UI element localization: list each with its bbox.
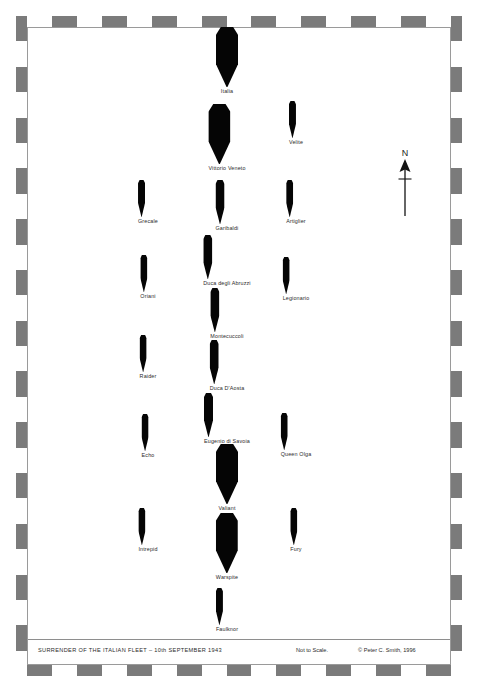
border-cell bbox=[152, 16, 177, 27]
border-cell bbox=[451, 219, 462, 244]
border-cell bbox=[202, 665, 227, 676]
ship-hull-icon bbox=[216, 588, 238, 625]
border-cell bbox=[16, 473, 27, 498]
ship-marker[interactable]: Valiant bbox=[216, 444, 238, 511]
ship-hull-icon bbox=[140, 255, 155, 292]
border-cell bbox=[52, 16, 77, 27]
border-cell bbox=[301, 16, 326, 27]
ship-hull-icon bbox=[138, 180, 158, 217]
caption-copyright: © Peter C. Smith, 1996 bbox=[358, 647, 416, 653]
border-cell bbox=[451, 651, 462, 676]
border-cell bbox=[52, 665, 77, 676]
ship-hull-icon bbox=[289, 101, 303, 138]
border-cell bbox=[16, 245, 27, 270]
ship-marker[interactable]: Duca D'Aosta bbox=[210, 340, 245, 391]
ship-hull-icon bbox=[208, 104, 245, 164]
border-cell bbox=[251, 665, 276, 676]
border-cell bbox=[16, 118, 27, 143]
border-cell bbox=[16, 371, 27, 396]
ship-hull-icon bbox=[290, 508, 301, 545]
border-cell bbox=[16, 270, 27, 295]
map-caption-bar: SURRENDER OF THE ITALIAN FLEET – 10th SE… bbox=[28, 639, 450, 660]
ship-marker[interactable]: Intrepid bbox=[138, 508, 157, 552]
border-cell bbox=[451, 575, 462, 600]
ship-marker[interactable]: Montecuccoli bbox=[210, 288, 243, 339]
border-cell bbox=[451, 245, 462, 270]
border-cell bbox=[451, 143, 462, 168]
ship-label: Intrepid bbox=[138, 546, 157, 552]
ship-hull-icon bbox=[203, 235, 250, 279]
border-cell bbox=[301, 665, 326, 676]
ship-marker[interactable]: Faulknor bbox=[216, 588, 238, 632]
ship-marker[interactable]: Italia bbox=[216, 27, 238, 94]
border-cell bbox=[426, 16, 451, 27]
border-cell bbox=[16, 575, 27, 600]
border-band-right bbox=[451, 16, 462, 676]
border-cell bbox=[16, 41, 27, 66]
border-cell bbox=[326, 16, 351, 27]
ship-label: Fury bbox=[290, 546, 301, 552]
border-cell bbox=[77, 665, 102, 676]
border-cell bbox=[16, 422, 27, 447]
ship-label: Velite bbox=[289, 139, 303, 145]
frame-rule-right bbox=[450, 27, 451, 665]
border-cell bbox=[451, 67, 462, 92]
ship-hull-icon bbox=[204, 393, 250, 437]
ship-marker[interactable]: Queen Olga bbox=[281, 413, 312, 457]
ship-label: Duca degli Abruzzi bbox=[203, 280, 250, 286]
border-cell bbox=[102, 665, 127, 676]
ship-label: Queen Olga bbox=[281, 451, 312, 457]
ship-label: Artiglier bbox=[286, 218, 306, 224]
ship-hull-icon bbox=[216, 27, 238, 87]
border-cell bbox=[77, 16, 102, 27]
ship-label: Grecale bbox=[138, 218, 158, 224]
ship-marker[interactable]: Raider bbox=[140, 335, 157, 379]
ship-marker[interactable]: Warspite bbox=[216, 513, 238, 580]
border-cell bbox=[451, 448, 462, 473]
border-cell bbox=[16, 295, 27, 320]
map-canvas: ItaliaVittorio VenetoVeliteGrecaleGariba… bbox=[28, 28, 450, 636]
ship-marker[interactable]: Duca degli Abruzzi bbox=[203, 235, 250, 286]
border-cell bbox=[451, 625, 462, 650]
border-cell bbox=[16, 346, 27, 371]
ship-marker[interactable]: Grecale bbox=[138, 180, 158, 224]
border-cell bbox=[102, 16, 127, 27]
ship-marker[interactable]: Echo bbox=[142, 414, 155, 458]
caption-scale-note: Not to Scale. bbox=[296, 647, 328, 653]
ship-label: Oriani bbox=[140, 293, 155, 299]
ship-marker[interactable]: Garibaldi bbox=[216, 180, 239, 231]
border-cell bbox=[251, 16, 276, 27]
ship-hull-icon bbox=[140, 335, 157, 372]
border-cell bbox=[376, 665, 401, 676]
ship-marker[interactable]: Legionario bbox=[283, 257, 310, 301]
north-label: N bbox=[388, 148, 422, 158]
border-cell bbox=[27, 665, 52, 676]
ship-marker[interactable]: Artiglier bbox=[286, 180, 306, 224]
map-page: ItaliaVittorio VenetoVeliteGrecaleGariba… bbox=[0, 0, 478, 692]
ship-marker[interactable]: Oriani bbox=[140, 255, 155, 299]
border-cell bbox=[202, 16, 227, 27]
border-cell bbox=[451, 168, 462, 193]
border-cell bbox=[451, 422, 462, 447]
border-cell bbox=[451, 194, 462, 219]
ship-label: Raider bbox=[140, 373, 157, 379]
ship-label: Valiant bbox=[216, 505, 238, 511]
ship-label: Warspite bbox=[216, 574, 238, 580]
ship-hull-icon bbox=[142, 414, 155, 451]
ship-label: Italia bbox=[216, 88, 238, 94]
border-cell bbox=[177, 665, 202, 676]
ship-hull-icon bbox=[281, 413, 312, 450]
ship-marker[interactable]: Vittorio Veneto bbox=[208, 104, 245, 171]
border-band-top bbox=[16, 16, 462, 27]
ship-marker[interactable]: Eugenio di Savoia bbox=[204, 393, 250, 444]
border-cell bbox=[152, 665, 177, 676]
border-cell bbox=[16, 651, 27, 676]
ship-marker[interactable]: Fury bbox=[290, 508, 301, 552]
border-cell bbox=[16, 397, 27, 422]
ship-hull-icon bbox=[216, 513, 238, 573]
border-cell bbox=[16, 600, 27, 625]
border-cell bbox=[376, 16, 401, 27]
ship-marker[interactable]: Velite bbox=[289, 101, 303, 145]
border-cell bbox=[451, 118, 462, 143]
border-band-bottom bbox=[16, 665, 462, 676]
